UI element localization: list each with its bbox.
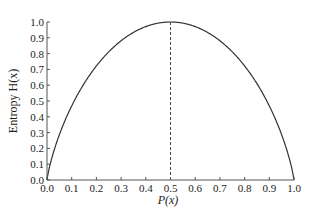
x-tick-label: 0.8: [238, 182, 252, 194]
y-tick-label: 1.0: [30, 16, 44, 28]
y-axis-label: Entropy H(x): [6, 69, 20, 133]
y-tick-label: 0.1: [30, 158, 44, 170]
y-tick-label: 0.0: [30, 174, 44, 186]
x-tick-label: 0.7: [213, 182, 227, 194]
x-tick-label: 0.9: [262, 182, 276, 194]
x-tick-label: 1.0: [287, 182, 301, 194]
y-tick-label: 0.5: [30, 95, 44, 107]
y-tick-label: 0.6: [30, 79, 44, 91]
y-tick-label: 0.4: [30, 111, 44, 123]
plot-area: [47, 22, 294, 180]
axes: [47, 22, 294, 180]
y-tick-label: 0.3: [30, 127, 44, 139]
x-tick-label: 0.3: [114, 182, 128, 194]
x-axis-label: P(x): [157, 193, 179, 207]
entropy-chart: 0.00.10.20.30.40.50.60.70.80.91.0 0.00.1…: [0, 0, 317, 217]
x-tick-label: 0.4: [139, 182, 153, 194]
y-tick-label: 0.9: [30, 32, 44, 44]
y-tick-label: 0.2: [30, 142, 44, 154]
x-tick-label: 0.2: [90, 182, 104, 194]
x-tick-label: 0.1: [65, 182, 79, 194]
y-tick-label: 0.7: [30, 63, 44, 75]
x-tick-label: 0.6: [188, 182, 202, 194]
y-tick-label: 0.8: [30, 48, 44, 60]
entropy-curve: [47, 22, 294, 180]
